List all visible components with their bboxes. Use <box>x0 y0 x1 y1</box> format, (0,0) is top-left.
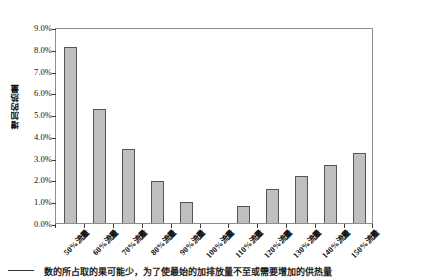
x-tick-label: 90%流量 <box>178 228 207 257</box>
figure-caption: 数的所占取的果可能少，为了使最始的加排放量不至或需要增加的供热量 <box>0 266 428 278</box>
plot-inner <box>56 29 372 223</box>
y-tick-label: 9.0% <box>22 24 52 33</box>
y-tick-label: 4.0% <box>22 133 52 142</box>
y-tickmark <box>52 160 56 161</box>
x-tick-label: 140%流量 <box>320 228 352 260</box>
bar <box>122 149 135 223</box>
x-tick-label: 60%流量 <box>91 228 120 257</box>
y-tick-label: 5.0% <box>22 111 52 120</box>
y-tick-label: 8.0% <box>22 45 52 54</box>
y-tick-label: 6.0% <box>22 89 52 98</box>
y-tickmark <box>52 203 56 204</box>
x-tick-label: 70%流量 <box>120 228 149 257</box>
y-tick-label: 2.0% <box>22 176 52 185</box>
bar <box>64 47 77 223</box>
x-tick-label: 110%流量 <box>233 228 265 260</box>
y-tick-label: 3.0% <box>22 154 52 163</box>
y-tickmark <box>52 94 56 95</box>
x-tick-label: 50%流量 <box>63 228 92 257</box>
bar <box>237 206 250 223</box>
y-tick-label: 1.0% <box>22 198 52 207</box>
y-tickmark <box>52 73 56 74</box>
y-tickmark <box>52 29 56 30</box>
y-tickmark <box>52 138 56 139</box>
y-axis-tick-labels: 0.0%1.0%2.0%3.0%4.0%5.0%6.0%7.0%8.0%9.0% <box>22 24 52 228</box>
y-tickmark <box>52 181 56 182</box>
y-tick-label: 0.0% <box>22 220 52 229</box>
y-axis-title: 增加的热量 <box>9 64 23 150</box>
bar <box>353 153 366 223</box>
y-tickmark <box>52 116 56 117</box>
bar <box>151 181 164 223</box>
x-tick-label: 120%流量 <box>262 228 294 260</box>
x-tick-label: 150%流量 <box>349 228 381 260</box>
x-tick-label: 130%流量 <box>291 228 323 260</box>
x-tick-label: 80%流量 <box>149 228 178 257</box>
plot-area <box>55 28 373 224</box>
caption-text: 数的所占取的果可能少，为了使最始的加排放量不至或需要增加的供热量 <box>44 267 332 277</box>
x-tick-label: 100%流量 <box>204 228 236 260</box>
chart-figure: 增加的热量 0.0%1.0%2.0%3.0%4.0%5.0%6.0%7.0%8.… <box>0 0 428 278</box>
bar <box>295 176 308 223</box>
y-tickmark <box>52 51 56 52</box>
bar <box>324 165 337 223</box>
bar <box>93 109 106 223</box>
bar <box>180 202 193 223</box>
y-tick-label: 7.0% <box>22 67 52 76</box>
bar <box>266 189 279 223</box>
caption-leader-dash <box>8 270 34 271</box>
